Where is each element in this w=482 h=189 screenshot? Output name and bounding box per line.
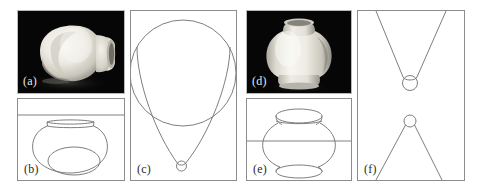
tilted-vase-construction-graphic [131,11,236,180]
upper-vertex-circle [403,76,418,91]
panel-a-photograph: (a) [17,10,125,94]
panel-b-line-drawing: (b) [17,98,125,181]
panel-f-construction: (f) [357,10,465,181]
panel-label-a: (a) [23,75,37,87]
panel-e-line-drawing: (e) [246,98,352,181]
panel-label-f: (f) [364,163,377,175]
figure-root: (a) (b) [0,0,482,189]
upright-vase-construction-graphic [358,11,464,180]
panel-label-c: (c) [137,163,151,175]
panel-label-d: (d) [252,75,267,87]
panel-label-b: (b) [24,163,39,175]
panel-c-construction: (c) [130,10,237,181]
panel-d-photograph: (d) [246,10,352,94]
panel-label-e: (e) [253,163,267,175]
